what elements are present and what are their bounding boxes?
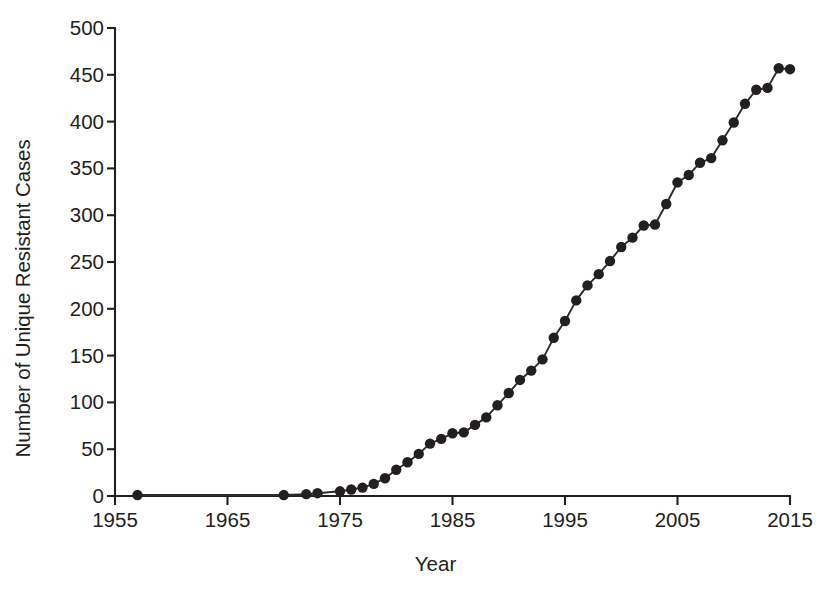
line-chart: Number of Unique Resistant Cases 0501001… — [0, 0, 816, 597]
data-point — [279, 490, 289, 500]
data-point — [346, 484, 356, 494]
data-point — [481, 412, 491, 422]
data-point — [391, 465, 401, 475]
data-point — [425, 438, 435, 448]
data-point — [785, 64, 795, 74]
data-point — [639, 220, 649, 230]
plot-area — [0, 0, 816, 597]
data-point — [312, 488, 322, 498]
data-point — [560, 316, 570, 326]
data-point — [447, 428, 457, 438]
data-point — [504, 388, 514, 398]
x-axis-title-text: Year — [415, 552, 456, 576]
data-point — [650, 219, 660, 229]
data-point — [357, 482, 367, 492]
data-point — [594, 269, 604, 279]
data-point — [436, 434, 446, 444]
data-point — [672, 177, 682, 187]
data-point — [549, 333, 559, 343]
data-point — [414, 449, 424, 459]
data-point — [605, 256, 615, 266]
data-point — [717, 135, 727, 145]
series-markers — [132, 63, 795, 500]
data-point — [762, 83, 772, 93]
data-point — [695, 158, 705, 168]
data-point — [706, 153, 716, 163]
data-point — [661, 199, 671, 209]
data-point — [132, 490, 142, 500]
x-axis-title: Year — [0, 552, 816, 576]
data-point — [751, 85, 761, 95]
data-point — [571, 295, 581, 305]
data-point — [627, 232, 637, 242]
data-point — [582, 280, 592, 290]
data-point — [459, 427, 469, 437]
data-point — [369, 479, 379, 489]
data-point — [470, 420, 480, 430]
data-point — [616, 242, 626, 252]
data-point — [774, 63, 784, 73]
data-point — [684, 170, 694, 180]
data-point — [402, 457, 412, 467]
data-point — [515, 375, 525, 385]
data-point — [537, 354, 547, 364]
data-point — [301, 489, 311, 499]
data-point — [729, 117, 739, 127]
data-point — [526, 365, 536, 375]
data-point — [380, 473, 390, 483]
data-point — [740, 99, 750, 109]
data-point — [335, 486, 345, 496]
data-point — [492, 400, 502, 410]
